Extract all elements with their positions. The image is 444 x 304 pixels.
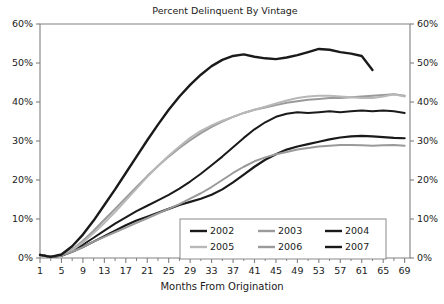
x-axis-tick-label: 49 [291, 265, 303, 276]
x-axis-tick-label: 53 [313, 265, 325, 276]
legend-label-2007: 2007 [345, 241, 369, 252]
x-axis-tick-label: 33 [206, 265, 218, 276]
x-axis-tick-label: 37 [227, 265, 239, 276]
x-axis-tick-label: 65 [377, 265, 389, 276]
legend-label-2002: 2002 [210, 225, 234, 236]
y-axis-tick-label: 20% [12, 174, 33, 185]
y-axis-tick-label-right: 0% [417, 252, 432, 263]
x-axis-tick-label: 5 [58, 265, 64, 276]
x-axis-tick-label: 13 [98, 265, 110, 276]
line-chart: Percent Delinquent By Vintage 0%10%20%30… [0, 0, 444, 304]
x-axis-title: Months From Origination [160, 281, 283, 292]
legend-label-2005: 2005 [210, 241, 234, 252]
x-axis-tick-label: 1 [37, 265, 43, 276]
x-axis-tick-label: 9 [80, 265, 86, 276]
x-axis-tick-label: 57 [334, 265, 346, 276]
y-axis-tick-label-right: 10% [417, 213, 438, 224]
x-axis-tick-label: 21 [141, 265, 153, 276]
y-axis-labels-left: 0%10%20%30%40%50%60% [12, 18, 33, 263]
chart-container: Percent Delinquent By Vintage 0%10%20%30… [0, 0, 444, 304]
y-axis-labels-right: 0%10%20%30%40%50%60% [417, 18, 438, 263]
y-axis-tick-label-right: 60% [417, 18, 438, 29]
legend-label-2003: 2003 [278, 225, 302, 236]
y-axis-tick-label: 0% [18, 252, 33, 263]
y-axis-tick-label: 60% [12, 18, 33, 29]
x-axis-tick-label: 25 [163, 265, 175, 276]
x-axis-tick-label: 45 [270, 265, 282, 276]
y-axis-tick-label-right: 30% [417, 135, 438, 146]
x-axis-labels: 159131721252933374145495357616569 [37, 265, 411, 276]
chart-title: Percent Delinquent By Vintage [152, 5, 298, 16]
y-axis-tick-label-right: 40% [417, 96, 438, 107]
x-axis-tick-label: 61 [356, 265, 368, 276]
x-axis-tick-label: 41 [248, 265, 260, 276]
x-axis-tick-label: 17 [120, 265, 132, 276]
chart-legend: 200220032004200520062007 [180, 219, 386, 259]
y-axis-tick-label-right: 50% [417, 57, 438, 68]
y-axis-tick-label: 40% [12, 96, 33, 107]
x-axis-tick-label: 29 [184, 265, 196, 276]
legend-label-2006: 2006 [278, 241, 302, 252]
legend-label-2004: 2004 [345, 225, 369, 236]
x-axis-tick-label: 69 [399, 265, 411, 276]
y-axis-tick-label-right: 20% [417, 174, 438, 185]
y-axis-tick-label: 30% [12, 135, 33, 146]
y-axis-tick-label: 10% [12, 213, 33, 224]
y-axis-tick-label: 50% [12, 57, 33, 68]
